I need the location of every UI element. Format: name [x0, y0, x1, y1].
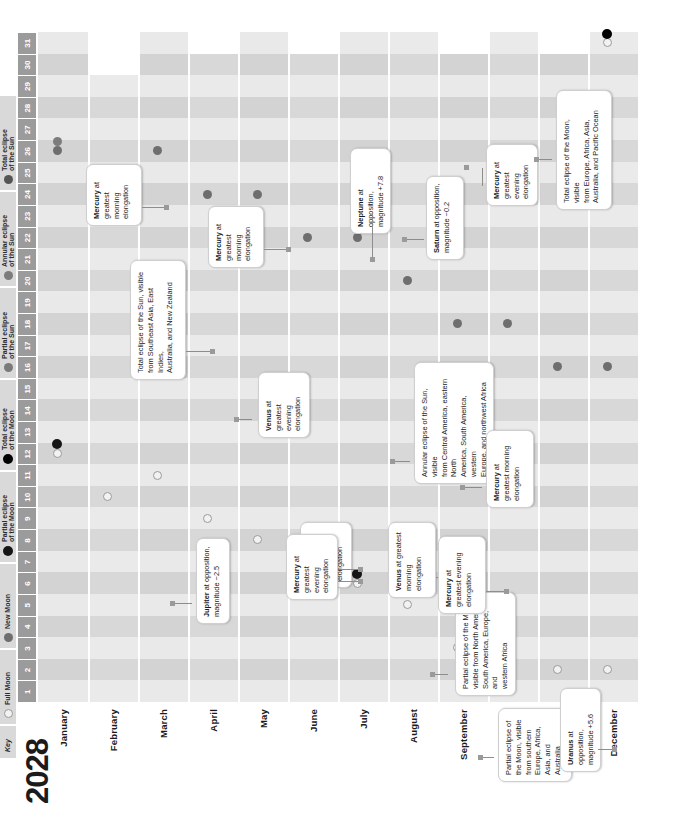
month-row-may [238, 32, 288, 702]
day-cell-january-24 [38, 183, 88, 205]
day-cell-january-20 [38, 270, 88, 292]
day-header-31: 31 [18, 32, 36, 54]
day-cell-march-8 [138, 529, 188, 551]
day-cell-june-27 [288, 118, 338, 140]
day-cell-october-28 [488, 97, 538, 119]
legend-item-label: New Moon [4, 594, 11, 629]
day-cell-march-7 [138, 551, 188, 573]
day-cell-april-3 [188, 637, 238, 659]
day-header-row: 1234567891011121314151617181920212223242… [18, 32, 36, 702]
day-cell-may-9 [238, 508, 288, 530]
day-cell-april-9 [188, 508, 238, 530]
day-cell-december-30 [588, 54, 638, 76]
month-label-march: March [138, 702, 188, 758]
day-cell-april-13 [188, 421, 238, 443]
day-cell-july-4 [338, 616, 388, 638]
day-cell-march-6 [138, 572, 188, 594]
day-cell-october-22 [488, 227, 538, 249]
day-header-12: 12 [18, 443, 36, 465]
day-cell-october-7 [488, 551, 538, 573]
day-cell-november-5 [538, 594, 588, 616]
day-cell-july-21 [338, 248, 388, 270]
day-cell-october-14 [488, 399, 538, 421]
day-cell-november-16 [538, 356, 588, 378]
callout-leader-line [482, 168, 483, 186]
day-header-4: 4 [18, 616, 36, 638]
total-solar-eclipse-icon [4, 175, 13, 184]
day-cell-february-12 [88, 443, 138, 465]
month-label-january: January [38, 702, 88, 758]
day-cell-december-2 [588, 659, 638, 681]
day-cell-october-9 [488, 508, 538, 530]
new-moon-icon [153, 146, 162, 155]
day-cell-november-20 [538, 270, 588, 292]
day-cell-february-2 [88, 659, 138, 681]
calendar-grid [38, 32, 638, 702]
annotation-callout: Mercury at greatest morning elongation [208, 206, 264, 268]
day-header-21: 21 [18, 248, 36, 270]
day-cell-july-3 [338, 637, 388, 659]
day-cell-september-28 [438, 97, 488, 119]
day-cell-june-22 [288, 227, 338, 249]
annotation-callout: Mercury at greatest evening elongation [286, 534, 338, 600]
day-cell-june-19 [288, 291, 338, 313]
day-cell-august-27 [388, 118, 438, 140]
day-cell-november-4 [538, 616, 588, 638]
annotation-callout: Mercury at greatest morning elongation [486, 430, 534, 508]
day-cell-june-21 [288, 248, 338, 270]
day-cell-september-17 [438, 335, 488, 357]
day-cell-april-14 [188, 399, 238, 421]
day-cell-january-10 [38, 486, 88, 508]
day-cell-february-28 [88, 97, 138, 119]
day-cell-january-12 [38, 443, 88, 465]
legend-item-annular-solar-eclipse-icon: Annular eclipse of the Sun [0, 190, 16, 286]
day-cell-october-27 [488, 118, 538, 140]
month-row-june [288, 32, 338, 702]
day-cell-may-30 [238, 54, 288, 76]
day-cell-january-17 [38, 335, 88, 357]
new-moon-icon [203, 190, 212, 199]
day-cell-january-2 [38, 659, 88, 681]
day-cell-january-16 [38, 356, 88, 378]
legend-item-label: Partial eclipse of the Sun [1, 312, 16, 359]
day-cell-may-4 [238, 616, 288, 638]
day-cell-september-27 [438, 118, 488, 140]
day-cell-october-17 [488, 335, 538, 357]
callout-marker [210, 350, 215, 355]
day-cell-april-25 [188, 162, 238, 184]
day-cell-august-29 [388, 75, 438, 97]
day-cell-january-14 [38, 399, 88, 421]
day-cell-january-25 [38, 162, 88, 184]
day-cell-october-29 [488, 75, 538, 97]
day-cell-december-12 [588, 443, 638, 465]
day-cell-july-1 [338, 680, 388, 702]
day-cell-december-4 [588, 616, 638, 638]
month-label-may: May [238, 702, 288, 758]
legend-item-full-moon-icon: Full Moon [0, 648, 16, 724]
day-cell-august-4 [388, 616, 438, 638]
day-cell-may-2 [238, 659, 288, 681]
day-cell-january-30 [38, 54, 88, 76]
day-cell-july-11 [338, 464, 388, 486]
day-header-24: 24 [18, 183, 36, 205]
month-row-july [338, 32, 388, 702]
legend-item-label: Full Moon [4, 672, 11, 705]
day-cell-may-31 [238, 32, 288, 54]
day-cell-september-30 [438, 54, 488, 76]
callout-marker [504, 590, 509, 595]
month-divider [388, 32, 390, 702]
day-cell-april-31 [188, 32, 238, 54]
annular-solar-eclipse-icon [53, 137, 62, 146]
day-cell-october-31 [488, 32, 538, 54]
new-moon-icon [253, 190, 262, 199]
annotation-callout: Venus at greatest evening elongation [258, 372, 310, 438]
new-moon-icon [403, 276, 412, 285]
day-cell-january-1 [38, 680, 88, 702]
legend-item-new-moon-icon: New Moon [0, 562, 16, 648]
day-header-20: 20 [18, 270, 36, 292]
day-cell-december-31 [588, 32, 638, 54]
day-cell-november-9 [538, 508, 588, 530]
day-cell-june-23 [288, 205, 338, 227]
day-cell-october-19 [488, 291, 538, 313]
new-moon-icon [303, 233, 312, 242]
